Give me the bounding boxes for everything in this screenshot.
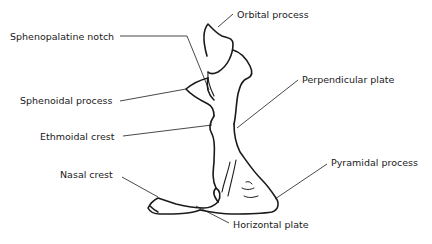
label-nasal-crest: Nasal crest <box>60 169 113 180</box>
label-horizontal-plate: Horizontal plate <box>233 219 309 230</box>
leader-lines <box>120 14 327 223</box>
orbital-process-outline <box>204 24 233 74</box>
label-sphenopalatine-notch: Sphenopalatine notch <box>10 31 114 42</box>
label-sphenoidal-process: Sphenoidal process <box>20 95 112 106</box>
palatine-bone-diagram: Orbital process Sphenopalatine notch Sph… <box>0 0 432 244</box>
label-ethmoidal-crest: Ethmoidal crest <box>40 131 114 142</box>
label-orbital-process: Orbital process <box>237 9 309 20</box>
label-perpendicular-plate: Perpendicular plate <box>302 74 394 85</box>
label-pyramidal-process: Pyramidal process <box>331 157 418 168</box>
